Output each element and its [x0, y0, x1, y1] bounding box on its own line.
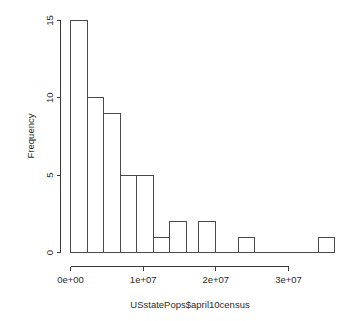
- histogram-bar: [71, 21, 88, 253]
- histogram-bar: [137, 175, 154, 252]
- x-axis-ticks: [71, 267, 289, 271]
- histogram-plot: 0 5 10 15 Frequency: [0, 0, 352, 321]
- plot-area: 0 5 10 15 Frequency: [0, 0, 352, 321]
- y-tick-label-15: 15: [44, 15, 55, 26]
- y-axis-ticks: [57, 21, 61, 253]
- x-axis-title: USstatePops$april10census: [130, 299, 250, 310]
- y-tick-label-5: 5: [44, 172, 55, 177]
- histogram-bar: [318, 237, 335, 253]
- y-axis-tick-labels: 0 5 10 15: [44, 15, 55, 255]
- histogram-screenshot: 0 5 10 15 Frequency: [0, 0, 352, 321]
- x-tick-label-0e00: 0e+00: [57, 274, 84, 285]
- y-tick-label-0: 0: [44, 250, 55, 255]
- histogram-bar: [238, 237, 255, 253]
- x-tick-label-2e07: 2e+07: [202, 274, 229, 285]
- histogram-bars: [71, 21, 335, 253]
- histogram-bar: [120, 175, 137, 252]
- histogram-bar: [87, 98, 104, 253]
- histogram-bar: [170, 222, 187, 253]
- x-axis-tick-labels: 0e+00 1e+07 2e+07 3e+07: [57, 274, 302, 285]
- histogram-bar: [104, 113, 121, 252]
- x-tick-label-3e07: 3e+07: [275, 274, 302, 285]
- histogram-bar: [153, 237, 170, 253]
- y-axis-title: Frequency: [25, 113, 36, 158]
- histogram-bar: [199, 222, 216, 253]
- x-tick-label-1e07: 1e+07: [130, 274, 157, 285]
- y-tick-label-10: 10: [44, 93, 55, 104]
